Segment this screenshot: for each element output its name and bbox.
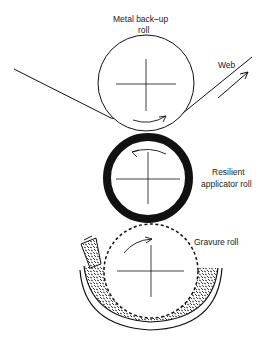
backup-roll-label: Metal back–up bbox=[113, 14, 169, 24]
doctor-blade bbox=[81, 236, 101, 268]
applicator-roll-label: Resilient bbox=[212, 167, 245, 177]
metal-back-up-roll bbox=[98, 35, 194, 131]
web-direction-arrow bbox=[218, 72, 248, 98]
backup-roll-label-2: roll bbox=[138, 25, 149, 35]
web-label: Web bbox=[218, 60, 236, 70]
gravure-roll bbox=[104, 224, 198, 318]
resilient-applicator-roll bbox=[107, 137, 189, 219]
roll-coater-diagram: Metal back–up roll Web Resilient applica… bbox=[0, 0, 273, 340]
applicator-roll-label-2: applicator roll bbox=[201, 179, 252, 189]
gravure-roll-label: Gravure roll bbox=[194, 237, 239, 247]
